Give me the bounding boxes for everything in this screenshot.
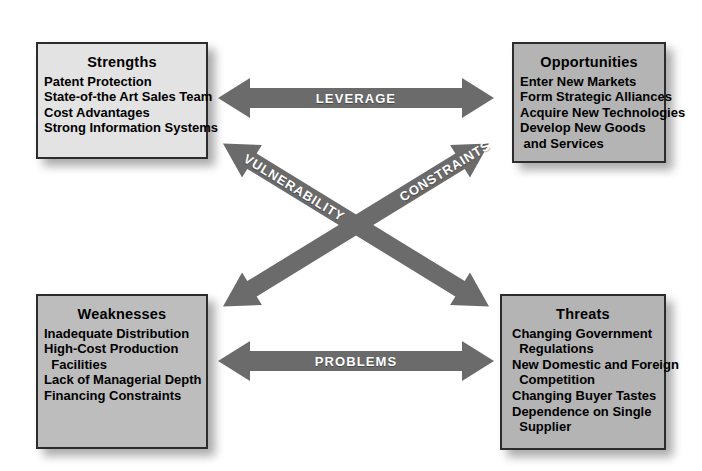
quadrant-strengths-title: Strengths [44,54,200,71]
list-item: Form Strategic Alliances [520,89,658,105]
list-item: Patent Protection [44,74,200,90]
list-item: Facilities [44,357,200,373]
list-item: Competition [512,372,658,388]
list-item: and Services [520,136,658,152]
quadrant-opportunities-list: Enter New Markets Form Strategic Allianc… [520,74,658,152]
list-item: Supplier [512,419,658,435]
list-item: Lack of Managerial Depth [44,372,200,388]
quadrant-threats[interactable]: Threats Changing Government Regulations … [500,294,666,450]
list-item: Financing Constraints [44,388,200,404]
quadrant-weaknesses[interactable]: Weaknesses Inadequate Distribution High-… [36,294,208,449]
quadrant-opportunities-title: Opportunities [520,54,658,71]
list-item: State-of-the Art Sales Team [44,89,200,105]
list-item: New Domestic and Foreign [512,357,658,373]
double-headed-arrow-icon [218,77,494,119]
list-item: Changing Government [512,326,658,342]
list-item: Cost Advantages [44,105,200,121]
list-item: Regulations [512,341,658,357]
list-item: Acquire New Technologies [520,105,658,121]
quadrant-weaknesses-title: Weaknesses [44,306,200,323]
connector-leverage[interactable]: LEVERAGE [218,77,494,119]
quadrant-weaknesses-list: Inadequate Distribution High-Cost Produc… [44,326,200,404]
list-item: Changing Buyer Tastes [512,388,658,404]
quadrant-opportunities[interactable]: Opportunities Enter New Markets Form Str… [512,42,666,163]
double-headed-arrow-icon [218,340,494,382]
quadrant-strengths[interactable]: Strengths Patent Protection State-of-the… [36,42,208,159]
list-item: Dependence on Single [512,404,658,420]
list-item: Enter New Markets [520,74,658,90]
list-item: Inadequate Distribution [44,326,200,342]
swot-diagram: Strengths Patent Protection State-of-the… [0,0,702,471]
quadrant-strengths-list: Patent Protection State-of-the Art Sales… [44,74,200,136]
list-item: Develop New Goods [520,120,658,136]
quadrant-threats-list: Changing Government Regulations New Dome… [508,326,658,435]
quadrant-threats-title: Threats [508,306,658,323]
list-item: Strong Information Systems [44,120,200,136]
list-item: High-Cost Production [44,341,200,357]
connector-problems[interactable]: PROBLEMS [218,340,494,382]
